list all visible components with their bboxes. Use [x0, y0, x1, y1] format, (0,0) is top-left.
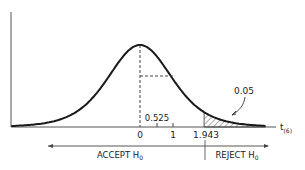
- tick-label-1: 1: [170, 130, 176, 140]
- x-axis-label-subscript: (6): [284, 127, 293, 134]
- t-density-curve: [11, 45, 265, 126]
- tail-area-label: 0.05: [234, 86, 254, 96]
- right-arrowhead-icon: [264, 144, 269, 148]
- tick-label-0: 0: [137, 130, 143, 140]
- reject-label-text: REJECT H: [215, 150, 254, 160]
- t-distribution-chart: 0 1 1.943 0.525 t(6) 0.05 ACCEPT H0 REJE…: [0, 0, 305, 170]
- accept-label-text: ACCEPT H: [97, 150, 139, 160]
- observed-value-label: 0.525: [145, 113, 169, 123]
- tick-label-critical: 1.943: [193, 130, 219, 140]
- accept-h0-label: ACCEPT H0: [97, 150, 143, 161]
- x-axis-label: t(6): [280, 122, 292, 134]
- reject-h0-label: REJECT H0: [215, 150, 258, 161]
- accept-label-subscript: 0: [139, 154, 143, 161]
- tail-area-pointer: [232, 97, 245, 115]
- reject-label-subscript: 0: [255, 154, 259, 161]
- left-arrowhead-icon: [48, 144, 53, 148]
